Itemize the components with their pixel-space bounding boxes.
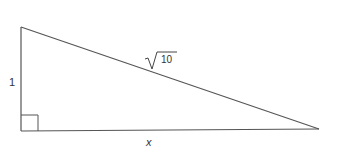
horizontal-leg	[21, 129, 319, 131]
triangle-diagram	[0, 0, 344, 153]
right-angle-marker	[21, 115, 38, 131]
horizontal-leg-label: x	[146, 137, 152, 148]
hypotenuse	[21, 27, 319, 129]
hypotenuse-label: 10	[161, 55, 172, 65]
vertical-leg-label: 1	[9, 77, 15, 88]
